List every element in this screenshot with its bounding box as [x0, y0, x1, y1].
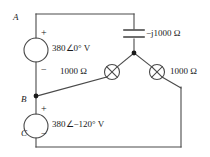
wire-right-resistor-to-rail — [162, 77, 181, 88]
source-ab-circle — [24, 38, 48, 62]
resistor-left-label: 1000 Ω — [60, 67, 87, 76]
source-ab-minus-sign: − — [41, 65, 47, 75]
circuit-diagram: A B C + − 380∠0° V + − 380∠−120° V −j100… — [0, 0, 210, 157]
junction-dot-node-b — [34, 94, 39, 99]
source-ab-label: 380∠0° V — [52, 44, 90, 53]
node-label-a: A — [13, 13, 19, 22]
wire-center-to-left-resistor — [117, 53, 134, 67]
wire-center-to-right-resistor — [134, 53, 152, 67]
source-ab-plus-sign: + — [41, 28, 47, 38]
node-label-b: B — [21, 95, 27, 104]
source-bc-plus-sign: + — [41, 104, 47, 114]
capacitor-label: −j1000 Ω — [146, 29, 181, 38]
source-bc-label: 380∠−120° V — [52, 120, 104, 129]
junction-dot-center — [132, 51, 137, 56]
source-bc-minus-sign: − — [41, 129, 47, 139]
schematic-vector-layer — [0, 0, 210, 157]
node-label-c: C — [21, 129, 27, 138]
wire-left-resistor-to-node-b — [37, 77, 107, 96]
resistor-right-label: 1000 Ω — [170, 67, 197, 76]
